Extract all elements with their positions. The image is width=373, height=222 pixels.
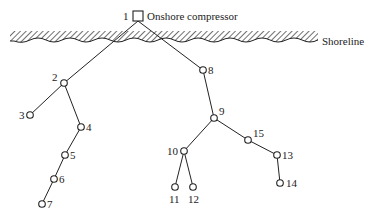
node-label: 9 [219,105,225,117]
node-circle-icon [190,184,197,191]
node-circle-icon [274,152,281,159]
node-label: 8 [208,64,214,76]
node-2: 2 [52,71,67,86]
compressor-square-icon [133,11,143,21]
node-label: 6 [59,173,65,185]
node-circle-icon [172,184,179,191]
node-circle-icon [211,115,218,122]
node-circle-icon [181,148,188,155]
node-label: 10 [167,145,179,157]
node-8: 8 [200,64,214,76]
pipeline-edges [30,21,280,204]
node-circle-icon [61,80,68,87]
node-label: 3 [19,109,25,121]
node-7: 7 [39,198,53,210]
pipe-segment [214,118,248,140]
node-label: 12 [188,193,199,205]
pipe-segment [64,21,138,83]
onshore-compressor: 1 Onshore compressor [123,10,238,22]
pipe-segment [30,83,64,115]
pipe-segment [248,140,277,155]
pipe-segment [184,118,214,151]
compressor-label: Onshore compressor [147,10,238,22]
shoreline-label: Shoreline [322,35,364,47]
node-5: 5 [62,149,76,161]
node-circle-icon [51,176,58,183]
node-circle-icon [245,137,252,144]
node-label: 4 [86,121,92,133]
node-label: 5 [70,149,76,161]
node-label: 7 [47,198,53,210]
node-circle-icon [27,112,34,119]
pipe-segment [64,83,81,127]
node-label: 14 [286,177,298,189]
pipe-segment [277,155,280,183]
node-circle-icon [39,201,46,208]
node-circle-icon [62,152,69,159]
pipe-segment [184,151,193,187]
pipe-segment [203,70,214,118]
node-10: 10 [167,145,187,157]
pipe-segment [138,21,203,70]
node-3: 3 [19,109,33,121]
pipeline-network-diagram: Shoreline 1 Onshore compressor 234567891… [0,0,373,222]
node-6: 6 [51,173,65,185]
node-12: 12 [188,184,199,205]
node-11: 11 [169,184,180,205]
node-label: 11 [169,193,180,205]
node-circle-icon [78,124,85,131]
node-15: 15 [245,127,265,143]
node-circle-icon [200,67,207,74]
compressor-id-label: 1 [123,10,129,22]
node-label: 13 [282,149,294,161]
node-label: 2 [52,71,58,83]
node-circle-icon [277,180,284,187]
node-13: 13 [274,149,294,161]
node-label: 15 [253,127,265,139]
